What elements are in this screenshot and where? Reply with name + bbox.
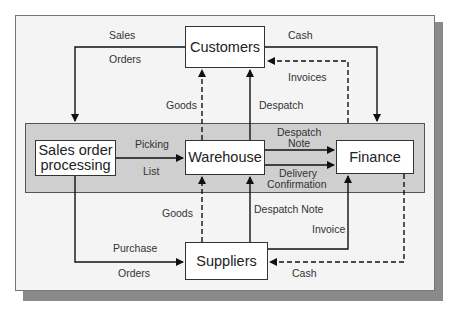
customers-label: Customers — [190, 40, 260, 55]
label-goods-top: Goods — [166, 100, 197, 111]
label-despatch-note-2: Note — [288, 138, 310, 149]
label-invoices: Invoices — [288, 72, 327, 83]
label-invoice: Invoice — [312, 224, 345, 235]
sales-order-processing-node: Sales order processing — [35, 140, 116, 176]
finance-node: Finance — [336, 140, 414, 174]
suppliers-label: Suppliers — [196, 254, 256, 269]
label-picking: Picking — [135, 139, 169, 150]
warehouse-node: Warehouse — [185, 140, 265, 175]
label-list: List — [143, 166, 159, 177]
suppliers-node: Suppliers — [185, 242, 268, 280]
label-despatch: Despatch — [259, 100, 303, 111]
label-sales: Sales — [109, 30, 135, 41]
label-orders-bottom: Orders — [118, 268, 150, 279]
label-delivery-2: Confirmation — [267, 179, 327, 190]
label-cash-bottom: Cash — [292, 268, 317, 279]
finance-label: Finance — [349, 150, 401, 165]
warehouse-label: Warehouse — [188, 150, 262, 165]
label-orders-top: Orders — [109, 54, 141, 65]
label-purchase: Purchase — [113, 243, 157, 254]
sales-order-processing-label: Sales order processing — [36, 143, 115, 173]
label-cash-top: Cash — [288, 30, 313, 41]
label-despatch-note-bottom: Despatch Note — [254, 204, 323, 215]
customers-node: Customers — [185, 26, 265, 68]
label-goods-bottom: Goods — [162, 208, 193, 219]
